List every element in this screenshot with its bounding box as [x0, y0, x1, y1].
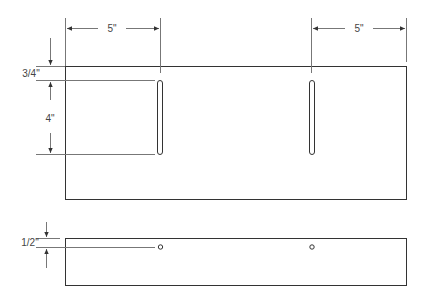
dimension-right-5in: 5"	[313, 23, 405, 34]
technical-drawing: 5" 5" 3/4" 4"	[0, 0, 422, 299]
dimension-3-4in: 3/4"	[22, 38, 50, 100]
side-board-outline	[66, 239, 407, 286]
left-slot	[158, 81, 163, 155]
dim-label: 3/4"	[22, 68, 40, 79]
dim-label: 5"	[354, 23, 364, 34]
top-board-outline	[66, 67, 407, 200]
left-hole	[158, 245, 162, 249]
dimension-1-2in: 1/2"	[21, 222, 46, 268]
top-view: 5" 5" 3/4" 4"	[22, 18, 406, 200]
dim-label: 4"	[45, 113, 55, 124]
side-view: 1/2"	[21, 222, 406, 286]
right-hole	[310, 245, 314, 249]
dimension-4in: 4"	[45, 113, 55, 153]
dim-label: 1/2"	[21, 237, 39, 248]
dim-label: 5"	[107, 23, 117, 34]
dimension-left-5in: 5"	[67, 23, 159, 34]
right-slot	[310, 81, 315, 155]
